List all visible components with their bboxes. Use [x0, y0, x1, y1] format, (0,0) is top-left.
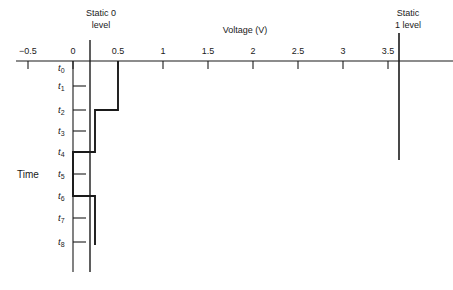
static-1-level-label-line1: Static [395, 8, 421, 20]
voltage-axis-ticks [28, 61, 388, 69]
voltage-tick-label-3: 3 [340, 46, 345, 57]
voltage-tick-label-25: 2.5 [292, 46, 305, 57]
time-tick-label-t6: t6 [58, 190, 65, 202]
time-tick-label-t2: t2 [58, 104, 65, 116]
static-1-level-label: Static 1 level [395, 8, 421, 31]
voltage-tick-label-15: 1.5 [202, 46, 215, 57]
figure-canvas: Static 0 level Voltage (V) Static 1 leve… [0, 0, 453, 290]
voltage-tick-label-0: 0 [70, 46, 75, 57]
time-tick-label-t0: t0 [58, 62, 65, 74]
voltage-tick-label-05: 0.5 [112, 46, 125, 57]
timing-diagram-svg [0, 0, 453, 290]
time-axis-ticks [73, 86, 86, 242]
signal-waveform [73, 61, 118, 245]
time-tick-label-t5: t5 [58, 168, 65, 180]
voltage-tick-label-neg05: −0.5 [19, 46, 37, 57]
time-tick-label-t8: t8 [58, 236, 65, 248]
time-axis-title: Time [17, 169, 39, 180]
static-0-level-label: Static 0 level [86, 8, 116, 31]
time-tick-label-t4: t4 [58, 146, 65, 158]
time-tick-label-t7: t7 [58, 212, 65, 224]
static-1-level-label-line2: 1 level [395, 20, 421, 32]
time-tick-label-t1: t1 [58, 80, 65, 92]
static-0-level-label-line1: Static 0 [86, 8, 116, 20]
voltage-tick-label-2: 2 [250, 46, 255, 57]
voltage-axis-title: Voltage (V) [223, 25, 268, 36]
voltage-tick-label-35: 3.5 [382, 46, 395, 57]
time-tick-label-t3: t3 [58, 125, 65, 137]
voltage-tick-label-1: 1 [160, 46, 165, 57]
static-0-level-label-line2: level [86, 20, 116, 32]
